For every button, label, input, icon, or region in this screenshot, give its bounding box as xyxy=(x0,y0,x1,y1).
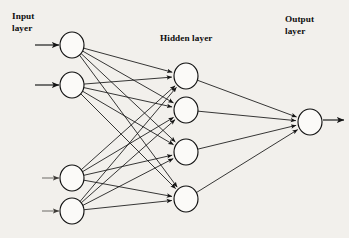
edge-i4-h4 xyxy=(84,200,172,209)
neuron-node-i4 xyxy=(60,198,84,224)
hidden-to-output-edges xyxy=(196,80,297,192)
neuron-node-i3 xyxy=(60,165,84,191)
neuron-node-i2 xyxy=(60,72,84,98)
edge-h4-o1 xyxy=(196,130,297,193)
edge-i2-h4 xyxy=(81,94,176,189)
edge-i2-h2 xyxy=(84,88,172,107)
neural-network-diagram: Input layer Hidden layer Output layer xyxy=(0,0,349,238)
edge-h2-o1 xyxy=(198,111,296,120)
edge-h1-o1 xyxy=(197,80,296,117)
neuron-node-i1 xyxy=(60,32,84,58)
neuron-node-h2 xyxy=(174,97,198,123)
neuron-node-h1 xyxy=(174,63,198,89)
edge-i4-h1 xyxy=(80,87,176,201)
network-canvas xyxy=(0,0,349,238)
edge-i1-h4 xyxy=(80,55,178,187)
edge-h3-o1 xyxy=(198,125,296,149)
edge-i4-h2 xyxy=(81,120,175,203)
neuron-node-h3 xyxy=(174,139,198,165)
neuron-node-o1 xyxy=(298,109,322,135)
edge-i2-h1 xyxy=(84,77,172,84)
neuron-node-h4 xyxy=(174,186,198,212)
edge-i1-h2 xyxy=(83,51,174,103)
input-to-hidden-edges xyxy=(80,48,178,210)
